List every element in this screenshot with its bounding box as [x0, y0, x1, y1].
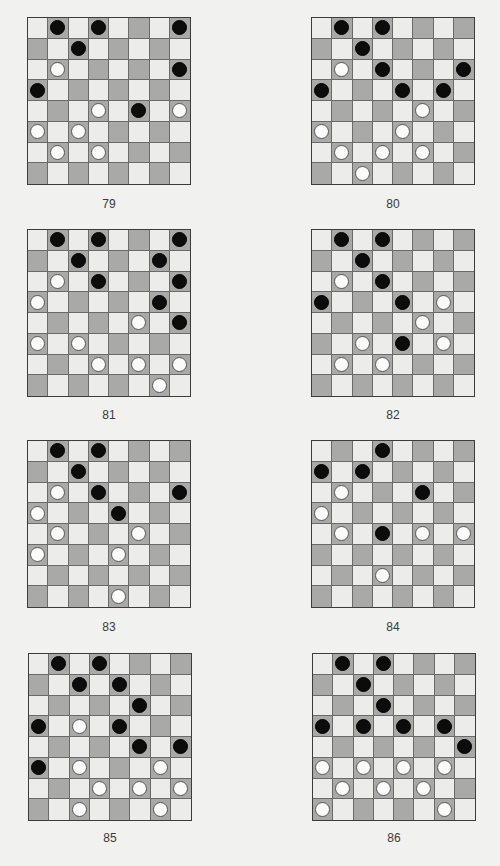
- board-square[interactable]: [170, 80, 190, 101]
- board-square[interactable]: [48, 566, 68, 587]
- board-square[interactable]: [312, 462, 332, 483]
- board-square[interactable]: [332, 586, 352, 607]
- board-square[interactable]: [434, 524, 454, 545]
- board-square[interactable]: [454, 503, 474, 524]
- board-square[interactable]: [129, 483, 149, 504]
- board-square[interactable]: [171, 779, 191, 800]
- board-square[interactable]: [394, 758, 414, 779]
- white-checker-piece-icon[interactable]: [72, 760, 87, 775]
- board-square[interactable]: [48, 230, 68, 251]
- black-checker-piece-icon[interactable]: [375, 274, 390, 289]
- board-square[interactable]: [48, 524, 68, 545]
- board-square[interactable]: [69, 39, 89, 60]
- white-checker-piece-icon[interactable]: [173, 781, 188, 796]
- board-square[interactable]: [90, 696, 110, 717]
- board-square[interactable]: [69, 586, 89, 607]
- board-square[interactable]: [434, 122, 454, 143]
- board-square[interactable]: [109, 503, 129, 524]
- white-checker-piece-icon[interactable]: [376, 781, 391, 796]
- board-square[interactable]: [129, 272, 149, 293]
- board-square[interactable]: [454, 122, 474, 143]
- board-square[interactable]: [354, 799, 374, 820]
- board-square[interactable]: [89, 18, 109, 39]
- board-square[interactable]: [353, 251, 373, 272]
- board-square[interactable]: [130, 716, 150, 737]
- board-square[interactable]: [435, 696, 455, 717]
- board-square[interactable]: [48, 334, 68, 355]
- board-square[interactable]: [434, 60, 454, 81]
- black-checker-piece-icon[interactable]: [334, 20, 349, 35]
- board-square[interactable]: [373, 18, 393, 39]
- board-square[interactable]: [48, 355, 68, 376]
- board-square[interactable]: [332, 230, 352, 251]
- board-square[interactable]: [69, 334, 89, 355]
- board-square[interactable]: [109, 272, 129, 293]
- white-checker-piece-icon[interactable]: [91, 103, 106, 118]
- board-square[interactable]: [332, 292, 352, 313]
- board-square[interactable]: [129, 545, 149, 566]
- board-square[interactable]: [69, 163, 89, 184]
- black-checker-piece-icon[interactable]: [314, 464, 329, 479]
- board-square[interactable]: [69, 524, 89, 545]
- board-square[interactable]: [170, 251, 190, 272]
- white-checker-piece-icon[interactable]: [355, 166, 370, 181]
- black-checker-piece-icon[interactable]: [356, 719, 371, 734]
- board-square[interactable]: [150, 292, 170, 313]
- black-checker-piece-icon[interactable]: [375, 20, 390, 35]
- board-square[interactable]: [29, 799, 49, 820]
- white-checker-piece-icon[interactable]: [71, 124, 86, 139]
- board-square[interactable]: [129, 566, 149, 587]
- board-square[interactable]: [170, 545, 190, 566]
- board-square[interactable]: [29, 737, 49, 758]
- board-square[interactable]: [48, 292, 68, 313]
- board-square[interactable]: [69, 143, 89, 164]
- board-square[interactable]: [394, 696, 414, 717]
- board-square[interactable]: [354, 716, 374, 737]
- white-checker-piece-icon[interactable]: [71, 336, 86, 351]
- board-square[interactable]: [109, 334, 129, 355]
- black-checker-piece-icon[interactable]: [91, 485, 106, 500]
- board-square[interactable]: [89, 503, 109, 524]
- board-square[interactable]: [69, 375, 89, 396]
- board-square[interactable]: [129, 292, 149, 313]
- board-square[interactable]: [374, 799, 394, 820]
- board-square[interactable]: [109, 251, 129, 272]
- board-square[interactable]: [69, 122, 89, 143]
- board-square[interactable]: [353, 60, 373, 81]
- board-square[interactable]: [48, 163, 68, 184]
- board-square[interactable]: [69, 272, 89, 293]
- black-checker-piece-icon[interactable]: [355, 41, 370, 56]
- board-square[interactable]: [434, 163, 454, 184]
- board-square[interactable]: [89, 524, 109, 545]
- board-square[interactable]: [434, 313, 454, 334]
- board-square[interactable]: [373, 60, 393, 81]
- board-square[interactable]: [150, 441, 170, 462]
- board-square[interactable]: [89, 39, 109, 60]
- board-square[interactable]: [129, 101, 149, 122]
- board-square[interactable]: [312, 292, 332, 313]
- white-checker-piece-icon[interactable]: [334, 62, 349, 77]
- board-square[interactable]: [89, 60, 109, 81]
- board-square[interactable]: [171, 799, 191, 820]
- board-square[interactable]: [393, 355, 413, 376]
- board-square[interactable]: [434, 483, 454, 504]
- white-checker-piece-icon[interactable]: [172, 103, 187, 118]
- board-square[interactable]: [109, 230, 129, 251]
- board-square[interactable]: [69, 18, 89, 39]
- board-square[interactable]: [454, 39, 474, 60]
- board-square[interactable]: [393, 122, 413, 143]
- board-square[interactable]: [455, 737, 475, 758]
- board-square[interactable]: [434, 566, 454, 587]
- board-square[interactable]: [313, 696, 333, 717]
- board-square[interactable]: [434, 503, 454, 524]
- board-square[interactable]: [171, 654, 191, 675]
- board-square[interactable]: [109, 355, 129, 376]
- board-square[interactable]: [130, 779, 150, 800]
- board-square[interactable]: [393, 251, 413, 272]
- black-checker-piece-icon[interactable]: [395, 83, 410, 98]
- board-square[interactable]: [90, 716, 110, 737]
- board-square[interactable]: [434, 18, 454, 39]
- board-square[interactable]: [434, 292, 454, 313]
- board-square[interactable]: [90, 758, 110, 779]
- board-square[interactable]: [49, 654, 69, 675]
